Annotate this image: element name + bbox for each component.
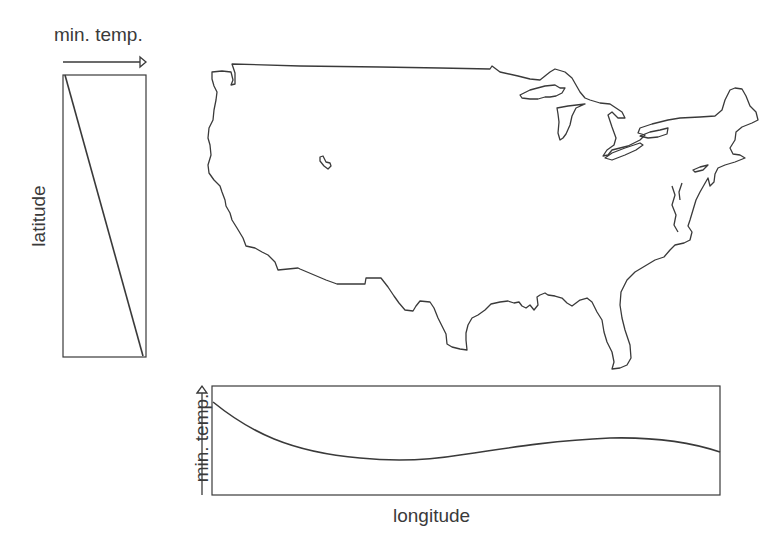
left-panel-arrow-icon xyxy=(63,57,146,67)
chesapeake-bay-outline xyxy=(672,183,682,232)
left-panel-curve xyxy=(65,75,143,356)
bottom-panel-arrow-icon xyxy=(197,386,207,495)
lake-michigan-outline xyxy=(557,104,585,140)
lake-ontario-outline xyxy=(640,128,668,138)
figure-canvas xyxy=(0,0,777,555)
great-salt-lake-outline xyxy=(320,156,331,169)
lake-superior-outline xyxy=(520,85,565,99)
long-island-outline xyxy=(693,165,708,172)
bottom-panel-curve xyxy=(213,402,720,460)
bottom-panel-frame xyxy=(212,386,720,495)
us-map-outline xyxy=(208,64,758,369)
